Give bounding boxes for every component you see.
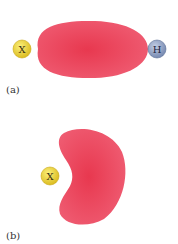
diagram-canvas: X H X xyxy=(0,0,178,244)
lone-pair-orbital-lobe xyxy=(59,129,126,225)
svg-text:X: X xyxy=(46,171,54,182)
atom-h-icon: H xyxy=(148,40,166,58)
svg-text:X: X xyxy=(18,44,26,55)
panel-b: X xyxy=(41,129,125,225)
panel-a-label: (a) xyxy=(6,84,20,95)
panel-b-label: (b) xyxy=(6,230,20,241)
atom-x-icon: X xyxy=(41,167,59,185)
svg-text:H: H xyxy=(153,44,162,55)
atom-x-icon: X xyxy=(13,40,31,58)
bonding-orbital-lobe xyxy=(38,21,148,78)
panel-a: X H xyxy=(13,21,166,78)
